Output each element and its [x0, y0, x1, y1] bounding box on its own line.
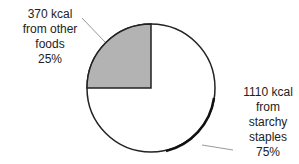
- label-line: from: [238, 100, 298, 115]
- label-starchy-staples: 1110 kcal from starchy staples 75%: [238, 85, 298, 160]
- label-other-foods: 370 kcal from other foods 25%: [2, 7, 98, 67]
- leader-line-staples: [202, 145, 233, 150]
- label-line: from other: [2, 22, 98, 37]
- label-line: 370 kcal: [2, 7, 98, 22]
- label-line: 25%: [2, 52, 98, 67]
- label-line: staples: [238, 130, 298, 145]
- label-line: 1110 kcal: [238, 85, 298, 100]
- label-line: 75%: [238, 145, 298, 160]
- label-line: starchy: [238, 115, 298, 130]
- label-line: foods: [2, 37, 98, 52]
